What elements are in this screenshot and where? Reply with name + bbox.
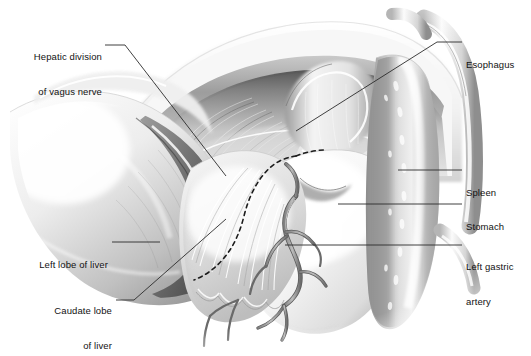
label-line-1: Stomach xyxy=(466,221,528,233)
label-line-2: artery xyxy=(466,296,530,308)
label-left-gastric-artery: Left gastric artery xyxy=(466,238,530,330)
label-line-1: Caudate lobe xyxy=(28,305,112,317)
label-line-2: of vagus nerve xyxy=(6,86,102,98)
label-line-1: Left lobe of liver xyxy=(12,259,108,271)
label-line-1: Esophagus xyxy=(466,59,528,71)
label-caudate-lobe-of-liver: Caudate lobe of liver xyxy=(28,282,112,356)
label-esophagus: Esophagus xyxy=(466,36,528,94)
label-line-1: Hepatic division xyxy=(6,51,102,63)
label-line-2: of liver xyxy=(28,340,112,352)
anatomy-figure: Hepatic division of vagus nerve Esophagu… xyxy=(0,0,531,356)
label-line-1: Left gastric xyxy=(466,261,530,273)
label-line-1: Spleen xyxy=(466,187,528,199)
label-hepatic-division-of-vagus-nerve: Hepatic division of vagus nerve xyxy=(6,28,102,120)
